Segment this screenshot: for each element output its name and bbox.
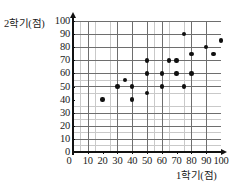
y-tickmark — [72, 100, 75, 101]
data-point — [160, 71, 164, 75]
y-tick-label: 100 — [44, 16, 70, 27]
y-tickmark — [72, 126, 75, 127]
x-tickmark — [191, 151, 192, 154]
data-point — [174, 71, 178, 75]
data-point — [160, 84, 164, 88]
x-tickmark — [147, 151, 148, 154]
x-tickmark — [177, 151, 178, 154]
data-point — [174, 58, 178, 62]
x-axis-line — [72, 151, 224, 153]
x-axis-title: 1학기(점) — [176, 170, 216, 181]
data-point — [182, 84, 186, 88]
y-tick-label: 90 — [44, 29, 70, 40]
x-tickmark — [132, 151, 133, 154]
x-tickmark — [162, 151, 163, 154]
x-tickmark — [221, 151, 222, 154]
y-tickmark — [72, 73, 75, 74]
y-tickmark — [72, 21, 75, 22]
data-point — [219, 38, 223, 42]
y-axis-title: 2학기(점) — [4, 18, 44, 29]
x-tickmark — [117, 151, 118, 154]
y-tickmark — [72, 47, 75, 48]
data-point — [211, 52, 215, 56]
data-point — [189, 71, 193, 75]
x-tickmark — [103, 151, 104, 154]
data-point — [100, 97, 104, 101]
x-tickmark — [206, 151, 207, 154]
plot-area — [73, 21, 221, 152]
scatter-plot-figure: 0102030405060708090100 01020304050607080… — [0, 0, 248, 190]
y-tickmark — [72, 87, 75, 88]
x-axis-tick-labels: 0102030405060708090100 — [0, 156, 248, 170]
x-tick-label: 100 — [209, 156, 233, 167]
x-tickmark — [88, 151, 89, 154]
y-tickmark — [72, 139, 75, 140]
grid-major-lines — [73, 21, 221, 152]
y-tick-label: 70 — [44, 55, 70, 66]
y-tick-label: 20 — [44, 121, 70, 132]
data-point — [145, 58, 149, 62]
data-point — [123, 78, 127, 82]
y-tick-label: 10 — [44, 134, 70, 145]
y-axis-arrow-icon — [70, 12, 76, 18]
y-tick-label: 40 — [44, 95, 70, 106]
y-tick-label: 50 — [44, 82, 70, 93]
data-point — [115, 84, 119, 88]
data-point — [145, 71, 149, 75]
y-tickmark — [72, 34, 75, 35]
y-tickmark — [72, 60, 75, 61]
y-tick-label: 30 — [44, 108, 70, 119]
y-tickmark — [72, 113, 75, 114]
data-point — [189, 52, 193, 56]
y-tick-label: 80 — [44, 42, 70, 53]
y-tick-label: 60 — [44, 68, 70, 79]
data-point — [167, 58, 171, 62]
